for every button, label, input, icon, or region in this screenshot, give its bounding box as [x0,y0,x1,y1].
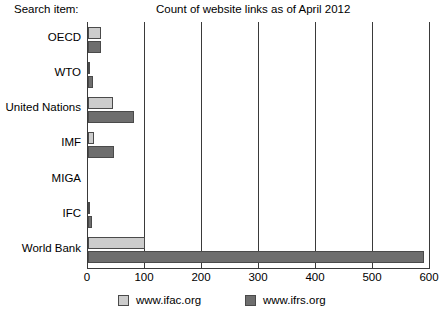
category-label-ifc: IFC [0,207,81,219]
legend-swatch-icon [245,295,256,306]
bar-united-nations-ifrs [88,111,134,123]
legend-label: www.ifrs.org [263,294,326,306]
bar-row: United Nations [0,92,447,127]
category-axis-caption: Search item: [14,3,79,15]
legend-item-ifac[interactable]: www.ifac.org [118,292,201,308]
bar-world-bank-ifac [88,237,145,249]
bottom-caption [10,319,440,327]
bar-row: WTO [0,57,447,92]
xtick-label-100: 100 [134,271,153,283]
category-label-world-bank: World Bank [0,242,81,254]
category-label-imf: IMF [0,136,81,148]
bar-chart: Search item: Count of website links as o… [0,0,447,327]
bar-ifc-ifrs [88,216,92,228]
chart-header: Search item: Count of website links as o… [0,3,447,21]
bar-row: IMF [0,127,447,162]
chart-title: Count of website links as of April 2012 [156,3,350,15]
legend-label: www.ifac.org [136,294,201,306]
bar-imf-ifac [88,132,94,144]
bar-row: World Bank [0,233,447,268]
legend-item-ifrs[interactable]: www.ifrs.org [245,292,326,308]
bar-imf-ifrs [88,146,114,158]
category-label-wto: WTO [0,66,81,78]
category-label-oecd: OECD [0,31,81,43]
bar-world-bank-ifrs [88,251,424,263]
xtick-label-300: 300 [248,271,267,283]
bar-oecd-ifac [88,27,101,39]
bar-united-nations-ifac [88,97,113,109]
xtick-label-600: 600 [419,271,438,283]
bar-wto-ifrs [88,76,93,88]
plot-area: OECDWTOUnited NationsIMFMIGAIFCWorld Ban… [0,22,447,270]
category-label-miga: MIGA [0,172,81,184]
bar-row: OECD [0,22,447,57]
bar-wto-ifac [88,62,90,74]
bar-ifc-ifac [88,202,90,214]
value-axis-tick-labels: 0100200300400500600 [0,271,447,287]
xtick-label-0: 0 [84,271,90,283]
bar-oecd-ifrs [88,41,101,53]
xtick-label-500: 500 [362,271,381,283]
bar-row: MIGA [0,163,447,198]
category-label-united-nations: United Nations [0,101,81,113]
xtick-label-200: 200 [191,271,210,283]
legend-swatch-icon [118,295,129,306]
category-axis-line [87,268,430,269]
xtick-label-400: 400 [305,271,324,283]
chart-legend: www.ifac.orgwww.ifrs.org [0,292,447,310]
bar-row: IFC [0,198,447,233]
